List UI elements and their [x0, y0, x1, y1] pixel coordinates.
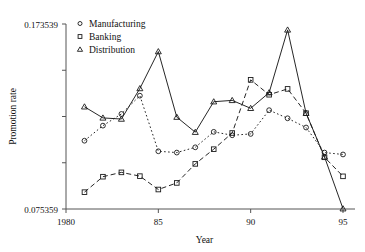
legend-label: Distribution [89, 45, 135, 55]
x-tick-label-85: 85 [154, 217, 164, 227]
data-point-circle [193, 145, 198, 150]
legend-label: Banking [89, 32, 121, 42]
data-point-circle [78, 22, 82, 26]
x-tick-label-1980: 1980 [57, 217, 76, 227]
data-point-circle [156, 149, 161, 154]
series-line [84, 80, 343, 192]
series-banking [82, 78, 345, 195]
y-axis-min-label: 0.075359 [24, 205, 58, 215]
data-point-circle [137, 93, 142, 98]
y-axis-max-label: 0.173539 [24, 20, 58, 30]
data-point-square [78, 35, 82, 39]
data-point-triangle [81, 104, 87, 109]
promotion-rate-line-chart: ManufacturingBankingDistribution 0.17353… [0, 0, 365, 252]
legend-label: Manufacturing [89, 19, 146, 29]
x-tick-label-95: 95 [339, 217, 349, 227]
data-point-circle [285, 116, 290, 121]
data-point-circle [82, 138, 87, 143]
data-point-triangle [77, 47, 82, 51]
label-layer: 0.1735390.075359Promotion rate1980859095… [8, 20, 348, 246]
x-tick-label-90: 90 [246, 217, 256, 227]
legend-item-banking[interactable]: Banking [78, 32, 121, 42]
legend-layer: ManufacturingBankingDistribution [77, 19, 145, 55]
chart-container: ManufacturingBankingDistribution 0.17353… [0, 0, 365, 252]
legend-item-manufacturing[interactable]: Manufacturing [78, 19, 146, 29]
y-axis-title: Promotion rate [8, 88, 18, 145]
data-point-circle [101, 123, 106, 128]
legend-item-distribution[interactable]: Distribution [77, 45, 135, 55]
data-point-circle [267, 108, 272, 113]
x-axis-title: Year [196, 235, 214, 245]
